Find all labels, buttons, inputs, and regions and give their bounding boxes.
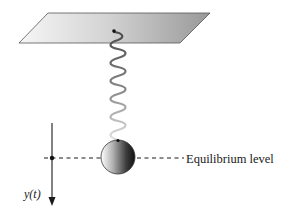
spring <box>111 32 126 140</box>
mass-attach-dot <box>116 139 119 142</box>
equilibrium-label: Equilibrium level <box>186 152 274 166</box>
mass-spring-diagram: Equilibrium level y(t) <box>0 0 299 212</box>
mass-ball <box>101 140 135 174</box>
ceiling-plane <box>19 13 210 43</box>
displacement-arg: (t) <box>29 187 40 201</box>
axis-arrow-down-icon <box>49 197 56 206</box>
displacement-label: y(t) <box>23 187 41 201</box>
spring-anchor-dot <box>112 29 116 33</box>
axis-origin-dot <box>50 156 54 160</box>
